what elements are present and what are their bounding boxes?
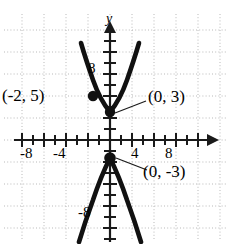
annotation-vertex-upper: (0, 3): [148, 88, 185, 105]
y-tick-label-8: 8: [88, 61, 96, 76]
x-tick-label-8: 8: [165, 146, 173, 161]
x-tick-label-4: 4: [131, 146, 139, 161]
leader-line-upper: [115, 101, 146, 113]
point-marker-neg2-5: [88, 91, 98, 101]
y-axis: [104, 21, 116, 242]
x-tick-label-neg8: -8: [20, 146, 33, 161]
annotation-point-neg2-5: (-2, 5): [2, 87, 44, 104]
y-axis-label: y: [106, 12, 112, 26]
graph-figure: y -8 -4 4 8 8 -8 (-2, 5) (0, 3) (0, -3): [0, 0, 229, 244]
annotation-vertex-lower: (0, -3): [143, 163, 185, 180]
y-tick-label-neg8: -8: [78, 205, 91, 220]
coordinate-plane: [0, 0, 229, 244]
point-marker-vertex-upper: [105, 107, 115, 117]
x-tick-label-neg4: -4: [53, 146, 66, 161]
point-marker-vertex-lower: [104, 152, 116, 164]
